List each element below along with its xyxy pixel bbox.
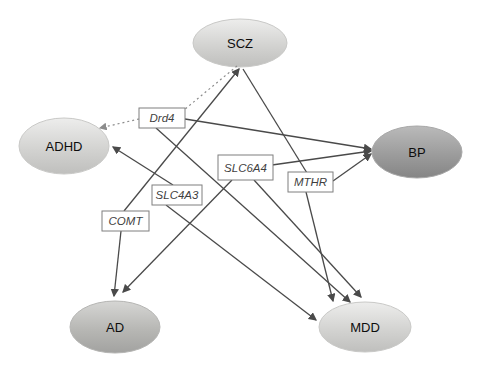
gene-comt: COMT bbox=[102, 211, 149, 231]
bp-label: BP bbox=[408, 145, 425, 160]
node-mdd: MDD bbox=[319, 302, 411, 352]
gene-drd4: Drd4 bbox=[139, 108, 185, 128]
mdd-label: MDD bbox=[350, 320, 380, 335]
mthr-label: MTHR bbox=[294, 176, 327, 188]
node-ad: AD bbox=[70, 301, 160, 353]
gene-slc6a4: SLC6A4 bbox=[218, 155, 273, 180]
adhd-label: ADHD bbox=[46, 139, 83, 154]
gene-disorder-diagram: SCZ ADHD BP AD MDD Drd4 SLC6A4 bbox=[0, 0, 480, 368]
gene-nodes-layer: Drd4 SLC6A4 SLC4A3 MTHR COMT bbox=[102, 108, 333, 231]
ad-label: AD bbox=[106, 320, 124, 335]
edges-layer bbox=[100, 66, 371, 320]
edge-slc4a3-adhd bbox=[113, 147, 173, 185]
edge-mthr-bp bbox=[333, 154, 371, 181]
slc6a4-label: SLC6A4 bbox=[224, 162, 267, 174]
edge-mthr-mdd bbox=[306, 192, 333, 301]
edge-comt-ad bbox=[114, 231, 121, 296]
node-bp: BP bbox=[372, 126, 462, 178]
node-scz: SCZ bbox=[193, 19, 287, 67]
scz-label: SCZ bbox=[227, 36, 253, 51]
comt-label: COMT bbox=[109, 215, 144, 227]
gene-slc4a3: SLC4A3 bbox=[152, 185, 202, 205]
slc4a3-label: SLC4A3 bbox=[156, 189, 199, 201]
drd4-label: Drd4 bbox=[150, 112, 175, 124]
edge-drd4-mdd bbox=[156, 128, 350, 302]
disorder-nodes-layer: SCZ ADHD BP AD MDD bbox=[19, 19, 462, 353]
gene-mthr: MTHR bbox=[288, 172, 333, 192]
edge-drd4-adhd bbox=[100, 119, 139, 128]
edge-drd4-bp bbox=[185, 119, 371, 149]
node-adhd: ADHD bbox=[19, 118, 109, 174]
edge-slc6a4-bp bbox=[272, 151, 371, 165]
